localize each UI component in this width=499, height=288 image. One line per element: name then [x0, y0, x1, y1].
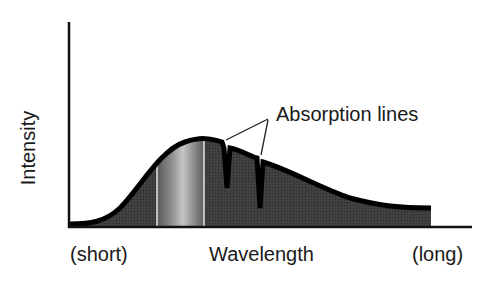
x-axis-label: Wavelength [209, 244, 314, 264]
y-axis-label: Intensity [18, 111, 38, 185]
spectrum-diagram: Intensity Absorption lines (short) Wavel… [0, 0, 499, 288]
x-axis-long-label: (long) [412, 244, 463, 264]
x-axis-short-label: (short) [70, 244, 128, 264]
annotation-leader-1 [226, 119, 268, 140]
visible-band [157, 100, 204, 230]
absorption-lines-annotation: Absorption lines [276, 104, 418, 124]
annotation-leader-2 [261, 120, 268, 155]
